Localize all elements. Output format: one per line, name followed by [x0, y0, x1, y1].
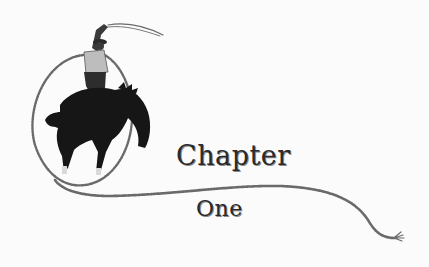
chapter-illustration: [0, 0, 429, 267]
chapter-number: One: [196, 196, 243, 221]
bronc-rider-icon: [45, 24, 150, 175]
chapter-heading: Chapter: [176, 140, 291, 171]
